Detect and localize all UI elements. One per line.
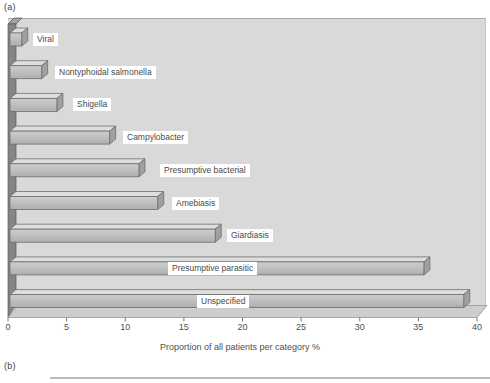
bar-presumptive-bacterial xyxy=(10,159,145,177)
bar-top-face xyxy=(10,224,221,229)
x-axis-title: Proportion of all patients per category … xyxy=(0,342,480,352)
bar-amebiasis xyxy=(10,192,164,210)
bar-nontyphoidal-salmonella xyxy=(10,61,48,79)
panel-b-label: (b) xyxy=(4,361,16,371)
bar-top-face xyxy=(10,126,116,131)
bar-label-viral: Viral xyxy=(33,33,58,46)
bar-giardiasis xyxy=(10,224,221,242)
bar-front-face xyxy=(10,66,42,79)
bar-label-campylobacter: Campylobacter xyxy=(123,131,188,144)
x-tick-label-25: 25 xyxy=(289,322,313,332)
bar-top-face xyxy=(10,192,164,197)
bar-front-face xyxy=(10,229,215,242)
bar-label-presumptive-bacterial: Presumptive bacterial xyxy=(160,164,250,177)
x-tick-label-20: 20 xyxy=(231,322,255,332)
bar-top-face xyxy=(10,93,63,98)
x-tick-label-35: 35 xyxy=(406,322,430,332)
bar-front-face xyxy=(10,131,110,144)
bar-label-nontyphoidal-salmonella: Nontyphoidal salmonella xyxy=(55,66,156,79)
x-tick-label-30: 30 xyxy=(348,322,372,332)
bar-viral xyxy=(10,28,28,46)
figure-panel: (a) ViralNontyphoidal salmonellaShigella… xyxy=(0,0,490,383)
bar-label-shigella: Shigella xyxy=(73,98,111,111)
x-tick-label-10: 10 xyxy=(113,322,137,332)
x-tick-label-0: 0 xyxy=(0,322,20,332)
x-tick-label-15: 15 xyxy=(172,322,196,332)
bar-front-face xyxy=(10,98,57,111)
bar-front-face xyxy=(10,33,22,46)
bar-label-presumptive-parasitic: Presumptive parasitic xyxy=(168,262,257,275)
bar-top-face xyxy=(10,159,145,164)
x-tick-label-40: 40 xyxy=(465,322,489,332)
bar-campylobacter xyxy=(10,126,116,144)
panel-b-top-border xyxy=(50,377,490,379)
x-tick-label-5: 5 xyxy=(55,322,79,332)
bar-label-giardiasis: Giardiasis xyxy=(227,229,273,242)
bar-shigella xyxy=(10,93,63,111)
bar-label-amebiasis: Amebiasis xyxy=(172,197,219,210)
bar-front-face xyxy=(10,164,139,177)
bar-front-face xyxy=(10,197,158,210)
bar-label-unspecified: Unspecified xyxy=(197,295,249,308)
